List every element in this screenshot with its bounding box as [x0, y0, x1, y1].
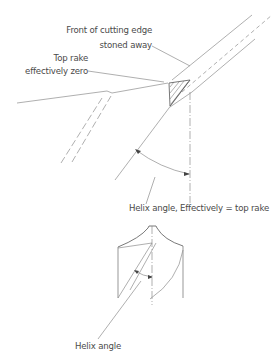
label-top-rake-line2: effectively zero — [10, 66, 88, 76]
chip-dashed-line-1 — [61, 98, 102, 163]
leader-top-rake — [88, 71, 164, 82]
tool-outer-edge-lower — [192, 39, 255, 92]
stoned-away-hatch — [169, 80, 190, 106]
arc-arrowhead-right — [184, 172, 190, 176]
leader-helix-effective — [146, 177, 155, 204]
label-top-rake-line1: Top rake — [20, 53, 88, 63]
helix-angle-arc — [136, 150, 189, 174]
label-front-edge-line1: Front of cutting edge — [60, 25, 152, 35]
drill-arc-arrowhead-left — [134, 270, 139, 274]
label-front-edge-line2: stoned away — [60, 40, 152, 50]
tool-outer-edge-upper — [172, 15, 252, 80]
tool-face-line — [170, 92, 192, 107]
drill-point-outline — [118, 226, 183, 247]
leader-front-edge — [152, 46, 190, 66]
tool-centerline-dashed — [182, 15, 272, 92]
drill-flute-curve — [150, 250, 183, 299]
workpiece-surface-line — [17, 83, 168, 103]
drill-lip-line — [118, 243, 152, 248]
chip-dashed-line-2 — [72, 96, 111, 162]
label-helix-angle: Helix angle — [75, 341, 121, 351]
label-helix-effective: Helix angle, Effectively = top rake — [129, 203, 269, 213]
leader-helix-angle — [98, 281, 141, 339]
